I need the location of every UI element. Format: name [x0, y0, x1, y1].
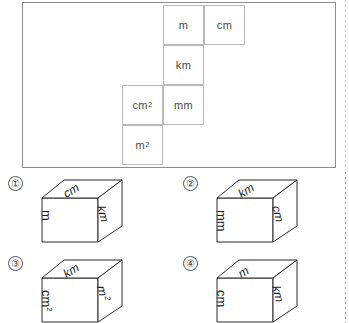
- net-cell-label: km: [176, 59, 191, 71]
- page-edge-guide-top: [345, 0, 346, 170]
- option-3[interactable]: ③cm2kmm2: [0, 252, 174, 323]
- cube-face-exponent: 2: [102, 296, 112, 300]
- cube-face-label-front: cm2: [39, 290, 54, 312]
- option-number-badge: ③: [8, 256, 23, 271]
- cube-face-unit: m: [39, 210, 54, 221]
- option-1[interactable]: ①mcmkm: [0, 172, 174, 248]
- net-cell-cm2: cm2: [122, 85, 163, 125]
- net-cell-cm: cm: [204, 5, 245, 45]
- option-number-badge: ①: [8, 176, 23, 191]
- cube-face-unit: mm: [214, 210, 229, 232]
- cube-illustration: cmmkm: [211, 256, 303, 323]
- option-2[interactable]: ②mmkmcm: [175, 172, 349, 248]
- net-cell-label: m: [179, 19, 188, 31]
- option-number-badge: ④: [183, 256, 198, 271]
- option-4[interactable]: ④cmmkm: [175, 252, 349, 323]
- page-edge-guide-bottom: [345, 172, 346, 323]
- net-cell-m: m: [163, 5, 204, 45]
- net-cell-label: m: [135, 139, 144, 151]
- net-cell-label: cm: [133, 99, 148, 111]
- problem-frame: mcmkmcm2mmm2: [22, 2, 336, 168]
- net-cell-m2: m2: [122, 125, 163, 165]
- cube-illustration: cm2kmm2: [36, 256, 128, 323]
- answer-options: ①mcmkm②mmkmcm③cm2kmm2④cmmkm: [0, 172, 349, 323]
- net-cell-label: cm: [217, 19, 232, 31]
- cube-face-unit: cm: [214, 290, 229, 307]
- option-number-badge: ②: [183, 176, 198, 191]
- net-cell-label: mm: [174, 99, 193, 111]
- net-cell-km: km: [163, 45, 204, 85]
- cube-net-diagram: mcmkmcm2mmm2: [23, 3, 337, 169]
- cube-face-unit: cm: [39, 290, 54, 307]
- worksheet-page: mcmkmcm2mmm2 ①mcmkm②mmkmcm③cm2kmm2④cmmkm: [0, 0, 349, 323]
- cube-face-label-front: cm: [214, 290, 229, 307]
- cube-face-unit: m: [94, 286, 110, 296]
- cube-illustration: mcmkm: [36, 176, 128, 246]
- net-cell-mm: mm: [163, 85, 204, 125]
- cube-face-label-front: mm: [214, 210, 229, 232]
- cube-face-label-front: m: [39, 210, 54, 221]
- cube-illustration: mmkmcm: [211, 176, 303, 246]
- cube-face-exponent: 2: [45, 307, 54, 311]
